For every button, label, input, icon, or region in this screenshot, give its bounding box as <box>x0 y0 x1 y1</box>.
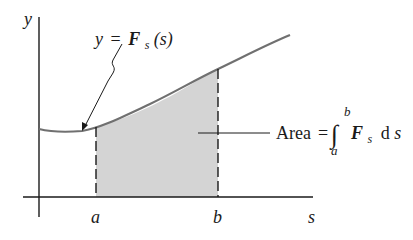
area-label-eq: = <box>318 123 328 143</box>
integrand-func: F <box>350 123 363 143</box>
integrand: F s d s <box>350 123 401 147</box>
x-axis-label: s <box>308 207 315 227</box>
curve-label-lhs: y <box>93 29 103 49</box>
differential-var: s <box>394 123 401 143</box>
integral-upper-limit: b <box>344 104 351 119</box>
curve-label-func: F <box>127 29 140 49</box>
differential-d: d <box>381 123 390 143</box>
curve-label-leader-line <box>84 44 122 128</box>
area-label-word: Area <box>276 123 311 143</box>
area-under-curve-diagram: y s a b y = F s (s) Area = ∫ b a F s d s <box>0 0 413 240</box>
upper-bound-label: b <box>213 207 222 227</box>
integral-lower-limit: a <box>331 143 338 158</box>
curve-label-sub: s <box>145 38 150 52</box>
integrand-sub: s <box>368 132 373 146</box>
curve-label-eq: = <box>111 29 121 49</box>
curve-label-arg: (s) <box>154 29 173 50</box>
curve-label: y = F s (s) <box>93 29 173 53</box>
y-axis-label: y <box>22 9 32 29</box>
lower-bound-label: a <box>91 207 100 227</box>
